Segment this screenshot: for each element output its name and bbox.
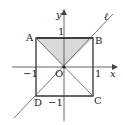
shaded-triangle-ABO: [36, 38, 93, 67]
tick-x-neg: −1: [23, 68, 38, 79]
vertex-B-label: B: [95, 35, 102, 46]
y-axis-label: y: [55, 9, 62, 20]
vertex-D-label: D: [34, 97, 42, 108]
tick-y-pos: 1: [58, 26, 64, 37]
origin-label: O: [55, 68, 63, 79]
tick-x-pos: 1: [95, 68, 101, 79]
line-l-label: ℓ: [104, 11, 108, 22]
tick-y-neg: −1: [48, 97, 63, 108]
vertex-A-label: A: [25, 32, 34, 43]
vertex-C-label: C: [94, 95, 102, 106]
coordinate-diagram: y x O 1 1 −1 −1 A B C D ℓ: [0, 0, 123, 125]
x-axis-label: x: [110, 68, 116, 79]
